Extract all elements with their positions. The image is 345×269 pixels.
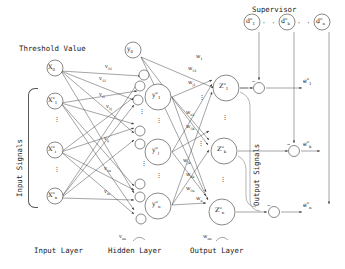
node-output-k: Zok	[217, 146, 226, 152]
weight-wn: wn	[196, 196, 203, 201]
weight-w01: w01	[188, 66, 197, 71]
threshold-value-label: Threshold Value	[19, 45, 86, 52]
output-layer-label: Output Layer	[190, 247, 243, 254]
neural-network-diagram: Threshold Value Supervisor X0 Xo1 Xoi Xo…	[0, 0, 345, 269]
weight-wjk: wjk	[183, 158, 190, 163]
weight-vi1: vi1	[99, 92, 105, 97]
weight-v0j: v0j	[106, 104, 112, 109]
weight-vnn: vnn	[119, 234, 126, 239]
weight-v0n: v0n	[104, 166, 111, 171]
junction-sign-3: −	[267, 203, 270, 208]
node-hidden-n: yon	[152, 201, 160, 207]
w-ellipsis-1: ⋮	[199, 94, 205, 100]
hidden-ellipsis-bottom: ⋮	[156, 172, 162, 178]
w-ellipsis-2: ⋮	[198, 140, 204, 146]
error-label-k: eok	[303, 141, 311, 147]
hidden-small-ellipsis-bottom: ⋮	[141, 160, 147, 166]
weight-wnn: wnn	[203, 234, 212, 239]
weight-wj1: wj1	[188, 80, 196, 85]
node-output-1: Zo1	[219, 83, 228, 89]
supervisor-ellipsis-1: · · ·	[262, 20, 286, 26]
input-ellipsis-top: ⋮	[54, 116, 60, 122]
output-ellipsis-top: ⋮	[222, 114, 228, 120]
node-input-n: Xon	[48, 192, 57, 198]
input-ellipsis-bottom: ⋮	[54, 166, 60, 172]
node-output-n: Zon	[215, 207, 224, 213]
weight-vin: vin	[104, 189, 110, 194]
weight-w0n: w0n	[186, 186, 195, 191]
input-signals-label: Input Signals	[16, 139, 23, 197]
supervisor-ellipsis-2: · · ·	[297, 20, 321, 26]
weight-vij: vij	[104, 136, 109, 141]
weight-v11: v11	[99, 76, 106, 81]
output-ellipsis-bottom: ⋮	[220, 176, 226, 182]
input-signals-brace	[28, 88, 38, 208]
connection-edges	[61, 32, 329, 241]
output-signals-label: Output Signals	[253, 144, 260, 206]
hidden-ellipsis-top: ⋮	[156, 117, 162, 123]
diagram-canvas	[0, 0, 345, 269]
junction-sign-2: −	[287, 142, 290, 147]
node-supervisor-1: do1	[246, 18, 255, 24]
node-input-i: Xoi	[48, 146, 56, 152]
node-hidden-j: yoj	[152, 147, 159, 153]
input-layer-label: Input Layer	[34, 247, 83, 254]
node-hidden-threshold: y0	[127, 46, 133, 52]
weight-w1: w1	[196, 54, 203, 59]
error-label-1: eo1	[303, 78, 312, 84]
weight-v01: v01	[105, 64, 112, 69]
error-label-n: eon	[303, 202, 312, 208]
hidden-layer-label: Hidden Layer	[108, 247, 161, 254]
weight-wn1: wn1	[186, 110, 195, 115]
hidden-small-ellipsis-top: ⋮	[139, 108, 145, 114]
junction-sign-1: −	[252, 79, 255, 84]
weight-wnk: wnk	[186, 172, 194, 177]
supervisor-label: Supervisor	[252, 6, 297, 13]
node-input-1: Xo1	[48, 97, 57, 103]
node-input-threshold: X0	[48, 64, 55, 70]
node-hidden-1: yo1	[152, 92, 160, 98]
weight-w0k: w0k	[186, 124, 194, 129]
